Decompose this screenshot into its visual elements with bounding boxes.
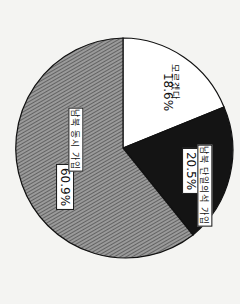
label-single-seat: 남북 단일의석 가입 [197, 145, 212, 227]
label-simultaneous: 남북 동시 가입 [68, 108, 83, 172]
label-dont-know: 모르겠다 [169, 64, 182, 100]
